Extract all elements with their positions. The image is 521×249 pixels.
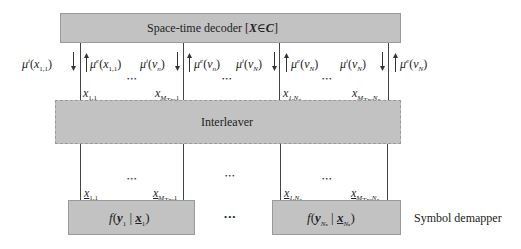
ellipsis: ••• (222, 75, 232, 83)
upper-line-3 (279, 43, 280, 100)
symbol-demapper-label: Symbol demapper (414, 211, 502, 226)
interleaver-label: Interleaver (201, 115, 253, 130)
arrow-down-icon (271, 52, 278, 72)
arrow-down-icon (174, 52, 181, 72)
lower-line-2 (183, 144, 184, 200)
message-mu-e-x11: μe(x1,1) (90, 54, 121, 76)
arrow-up-icon (186, 52, 193, 72)
message-mu-i-vN: μi(vN) (236, 54, 262, 76)
message-mu-i-vN-2: μi(vN) (340, 54, 366, 76)
ellipsis: ••• (322, 75, 332, 83)
ellipsis: ••• (225, 172, 235, 180)
ellipsis: ••• (224, 212, 236, 222)
upper-line-4 (388, 43, 389, 100)
upper-line-1 (80, 43, 81, 100)
demapper-formula-1: f(y1 | x1) (109, 211, 150, 231)
message-mu-e-vN: μe(vN) (291, 54, 318, 76)
upper-line-2 (183, 43, 184, 100)
message-mu-i-x11: μi(x1,1) (22, 54, 52, 76)
decoder-label-in: ∈ (257, 21, 266, 35)
message-mu-e-vN-2: μe(vN) (400, 54, 427, 76)
arrow-down-icon (379, 52, 386, 72)
message-mu-e-vn: μe(vn) (194, 54, 220, 76)
decoder-label-prefix: Space-time decoder [ (147, 21, 249, 35)
decoder-label-suffix: ] (274, 21, 278, 35)
arrow-up-icon (283, 52, 290, 72)
decoder-label-var: X (249, 21, 257, 35)
decoder-label-set: C (266, 21, 274, 35)
arrow-up-icon (83, 52, 90, 72)
ellipsis: ••• (127, 175, 137, 183)
arrow-down-icon (70, 52, 77, 72)
lower-line-4 (387, 144, 388, 200)
ellipsis: ••• (322, 175, 332, 183)
lower-line-1 (80, 144, 81, 200)
arrow-up-icon (392, 52, 399, 72)
interleaver-box: Interleaver (55, 100, 401, 144)
demapper-box-Ns: f(yNₛ | xNₛ) (272, 200, 401, 235)
demapper-box-1: f(y1 | x1) (68, 200, 195, 235)
decoder-label: Space-time decoder [X∈C] (147, 21, 278, 36)
space-time-decoder-box: Space-time decoder [X∈C] (60, 13, 401, 43)
ellipsis: ••• (127, 75, 137, 83)
message-mu-i-vn: μi(vn) (140, 54, 165, 76)
lower-line-3 (280, 144, 281, 200)
demapper-formula-Ns: f(yNₛ | xNₛ) (307, 211, 355, 231)
